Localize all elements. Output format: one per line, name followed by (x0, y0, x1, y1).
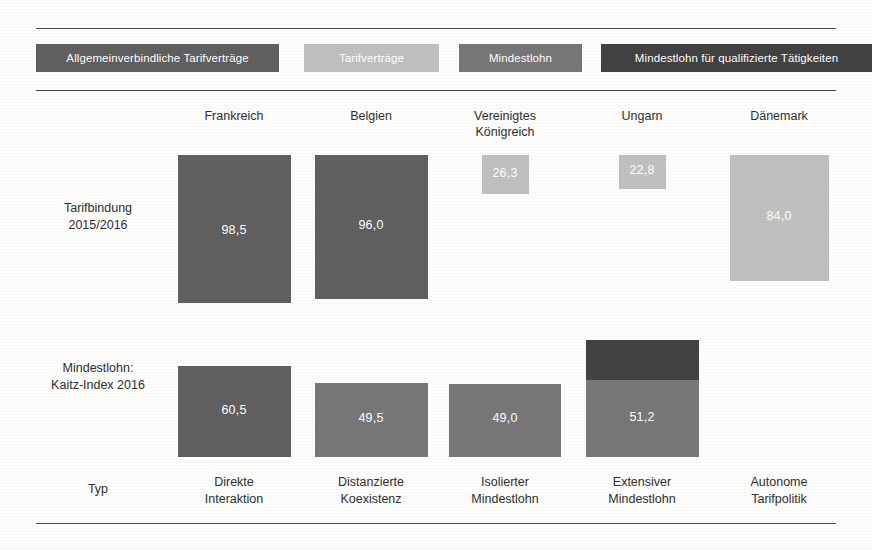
row-label-line1: Mindestlohn: (24, 360, 172, 377)
row-label-kaitz-index: Mindestlohn: Kaitz-Index 2016 (24, 360, 172, 394)
type-cell-line2: Interaktion (154, 491, 314, 508)
column-header-line1: Frankreich (154, 108, 314, 124)
column-header-line2: Königreich (425, 124, 585, 140)
type-cell-line2: Tarifpolitik (699, 491, 859, 508)
bar-tarifbindung-frankreich[interactable]: 98,5 (178, 155, 291, 303)
chart-figure: Allgemeinverbindliche Tarifverträge Tari… (0, 0, 872, 550)
legend-item-allgemeinverbindliche-tarifvertraege[interactable]: Allgemeinverbindliche Tarifverträge (36, 44, 279, 72)
legend-item-label: Mindestlohn für qualifizierte Tätigkeite… (635, 52, 838, 64)
row-label-line1: Tarifbindung (24, 200, 172, 217)
bar-tarifbindung-d-nemark[interactable]: 84,0 (730, 155, 829, 281)
column-header-line1: Ungarn (562, 108, 722, 124)
type-cell-line1: Autonome (699, 474, 859, 491)
bar-value-kaitz-vereinigtes-k-nigreich: 49,0 (449, 411, 561, 425)
row-label-tarifbindung: Tarifbindung 2015/2016 (24, 200, 172, 234)
row-label-line2: 2015/2016 (24, 217, 172, 234)
bar-kaitz-belgien[interactable]: 49,5 (315, 383, 428, 457)
column-header-vereinigtes-k-nigreich: VereinigtesKönigreich (425, 108, 585, 140)
bar-value-tarifbindung-d-nemark: 84,0 (730, 209, 829, 223)
type-cell-line2: Mindestlohn (425, 491, 585, 508)
rule-top (36, 28, 836, 29)
type-cell-vereinigtes-k-nigreich: IsolierterMindestlohn (425, 474, 585, 508)
bar-kaitz-frankreich[interactable]: 60,5 (178, 366, 291, 457)
column-header-line1: Dänemark (699, 108, 859, 124)
column-header-d-nemark: Dänemark (699, 108, 859, 124)
type-cell-line1: Isolierter (425, 474, 585, 491)
type-cell-frankreich: DirekteInteraktion (154, 474, 314, 508)
bar-qualified-minimum-wage-ungarn[interactable] (586, 340, 699, 380)
type-cell-ungarn: ExtensiverMindestlohn (562, 474, 722, 508)
bar-value-tarifbindung-belgien: 96,0 (315, 218, 428, 232)
bar-tarifbindung-vereinigtes-k-nigreich[interactable]: 26,3 (482, 155, 529, 194)
bar-tarifbindung-belgien[interactable]: 96,0 (315, 155, 428, 299)
type-cell-line1: Extensiver (562, 474, 722, 491)
type-cell-line2: Mindestlohn (562, 491, 722, 508)
column-header-ungarn: Ungarn (562, 108, 722, 124)
type-cell-line1: Direkte (154, 474, 314, 491)
bar-kaitz-vereinigtes-k-nigreich[interactable]: 49,0 (449, 384, 561, 458)
legend-item-mindestlohn[interactable]: Mindestlohn (459, 44, 582, 72)
rule-bottom (36, 523, 836, 524)
bar-value-kaitz-ungarn: 51,2 (586, 410, 699, 424)
bar-value-tarifbindung-vereinigtes-k-nigreich: 26,3 (482, 166, 529, 180)
legend-item-tarifvertraege[interactable]: Tarifverträge (304, 44, 439, 72)
bar-value-kaitz-frankreich: 60,5 (178, 403, 291, 417)
legend-item-label: Mindestlohn (489, 52, 552, 64)
chart-legend: Allgemeinverbindliche Tarifverträge Tari… (36, 44, 836, 74)
bar-kaitz-ungarn[interactable]: 51,2 (586, 380, 699, 457)
bar-value-tarifbindung-frankreich: 98,5 (178, 223, 291, 237)
column-header-frankreich: Frankreich (154, 108, 314, 124)
bar-tarifbindung-ungarn[interactable]: 22,8 (619, 155, 666, 189)
row-label-typ: Typ (24, 481, 172, 498)
legend-item-mindestlohn-qualifizierte[interactable]: Mindestlohn für qualifizierte Tätigkeite… (601, 44, 872, 72)
bar-value-kaitz-belgien: 49,5 (315, 411, 428, 425)
legend-item-label: Tarifverträge (339, 52, 404, 64)
row-label-typ-text: Typ (24, 481, 172, 498)
column-header-line1: Vereinigtes (425, 108, 585, 124)
row-label-line2: Kaitz-Index 2016 (24, 377, 172, 394)
type-cell-d-nemark: AutonomeTarifpolitik (699, 474, 859, 508)
rule-middle (36, 90, 836, 91)
bar-value-tarifbindung-ungarn: 22,8 (619, 163, 666, 177)
legend-item-label: Allgemeinverbindliche Tarifverträge (66, 52, 248, 64)
